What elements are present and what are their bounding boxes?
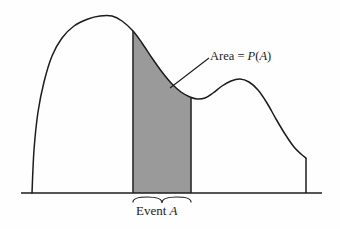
probability-density-figure: Area = P(A) Event A <box>0 0 340 229</box>
event-axis-label: Event A <box>136 204 178 217</box>
area-label-event: A <box>259 49 267 63</box>
event-label-symbol: A <box>170 203 178 218</box>
annotation-leader-line <box>170 58 209 88</box>
area-annotation-label: Area = P(A) <box>210 50 271 63</box>
area-label-prefix: Area = <box>210 49 248 63</box>
area-label-close-paren: ) <box>267 49 271 63</box>
event-label-prefix: Event <box>136 203 170 218</box>
figure-canvas <box>0 0 340 229</box>
shaded-event-region <box>133 31 191 193</box>
